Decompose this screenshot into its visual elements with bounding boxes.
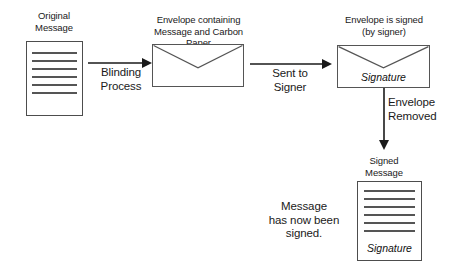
text-line bbox=[32, 52, 77, 54]
envelope-removed-label: Envelope Removed bbox=[388, 96, 462, 123]
original-message-caption: Original Message bbox=[12, 10, 96, 33]
blind-signature-diagram: Original Message Blinding Process Envelo… bbox=[0, 0, 465, 267]
signed-envelope-signature: Signature bbox=[338, 71, 429, 83]
text-line bbox=[364, 190, 416, 192]
text-line bbox=[32, 92, 77, 94]
envelope-flap-icon bbox=[153, 45, 243, 86]
sent-to-signer-label: Sent to Signer bbox=[254, 67, 326, 94]
blinding-process-label: Blinding Process bbox=[85, 66, 157, 93]
original-message-document bbox=[26, 41, 83, 116]
signed-envelope: Signature bbox=[337, 45, 430, 88]
signed-message-signature: Signature bbox=[358, 242, 421, 254]
signed-message-lines bbox=[364, 190, 416, 238]
text-line bbox=[364, 222, 416, 224]
text-line bbox=[32, 68, 77, 70]
original-message-lines bbox=[32, 52, 77, 100]
text-line bbox=[364, 214, 416, 216]
text-line bbox=[364, 198, 416, 200]
signed-message-caption: Signed Message bbox=[348, 155, 420, 178]
signed-message-document: Signature bbox=[357, 181, 422, 261]
text-line bbox=[364, 206, 416, 208]
text-line bbox=[364, 230, 416, 232]
text-line bbox=[32, 76, 77, 78]
signed-envelope-caption: Envelope is signed (by signer) bbox=[329, 14, 439, 37]
text-line bbox=[32, 60, 77, 62]
blinded-envelope bbox=[152, 44, 244, 87]
conclusion-note: Message has now been signed. bbox=[256, 200, 352, 241]
text-line bbox=[32, 84, 77, 86]
